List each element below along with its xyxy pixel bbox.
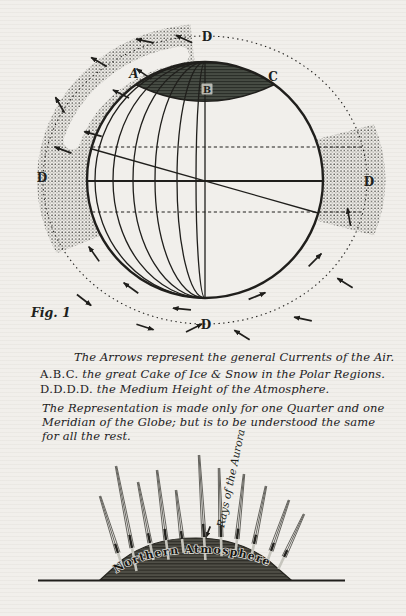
flow-arrow [186,324,202,332]
aurora-ray-base [148,533,150,543]
aurora-ray-base [181,531,182,539]
label-b: B [203,84,211,95]
aurora-ray [137,482,148,543]
aurora-ray-base [254,535,256,544]
aurora-ray [99,496,116,553]
flow-arrow [234,330,249,340]
aurora-ray-base [237,529,238,539]
aurora-ray [269,500,288,551]
flow-arrow [89,247,99,262]
label-d-right: D [364,175,374,189]
flow-arrow [337,278,352,288]
aurora-ray [101,496,120,553]
aurora-ray-base [203,524,204,537]
flow-arrow [173,308,191,310]
flow-arrow [136,324,153,330]
stipple-band-right [317,125,386,236]
label-d-left: D [37,171,47,185]
aurora-ray [286,514,305,558]
aurora-vignette: Northern Atmosphere Rays of the Aurora [38,428,345,581]
aurora-ray [273,500,290,551]
figure-plate: D D D D A B C Fig. 1 Northern Atmosphere… [0,0,406,616]
fig-number-label: Fig. 1 [30,305,71,320]
aurora-ray [115,466,130,548]
scanned-plate-page: D D D D A B C Fig. 1 Northern Atmosphere… [0,0,406,616]
label-d-top: D [202,30,212,44]
aurora-ray [117,466,134,548]
aurora-ray-base [165,529,166,540]
flow-arrow [77,294,91,305]
aurora-ray [252,486,265,544]
aurora-ray-glow [278,557,284,569]
aurora-ray [139,482,152,543]
label-d-bottom: D [201,318,211,332]
flow-arrow [124,283,139,294]
aurora-ray [282,514,303,556]
flow-arrow [309,254,322,267]
label-c: C [268,70,278,84]
flow-arrow [294,317,312,321]
aurora-ray [256,486,267,544]
flow-arrow [249,293,266,300]
